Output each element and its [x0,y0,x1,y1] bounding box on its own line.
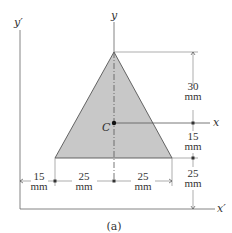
dim-bottom-3-unit: mm [134,180,152,192]
x-label: x [213,116,220,129]
dim-tick [192,157,195,160]
dim-bottom-2-unit: mm [75,180,93,192]
triangle-centroid-diagram: y′ x′ y x C 30 mm 15 mm 25 mm 15 mm 2 [0,0,232,233]
centroid-point [112,121,116,125]
figure-caption: (a) [106,220,121,233]
dim-bottom-1-unit: mm [30,180,48,192]
dim-right-1-unit: mm [184,90,202,102]
dim-right-3-unit: mm [184,177,202,189]
dim-right-2-unit: mm [184,140,202,152]
centroid-label: C [102,121,111,134]
y-prime-label: y′ [13,16,23,29]
dim-tick [192,122,195,125]
dim-tick [113,180,116,183]
x-prime-label: x′ [217,202,226,215]
y-label: y [110,9,118,22]
dim-tick [54,180,57,183]
triangle-shape [55,52,172,158]
